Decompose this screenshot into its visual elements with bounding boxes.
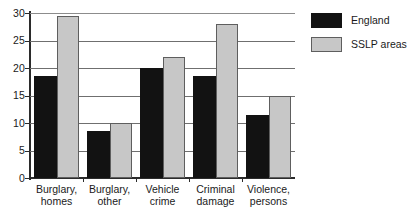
y-axis-tick-label: 20 [1,63,25,74]
chart-legend: EnglandSSLP areas [311,13,407,61]
bar-england [140,68,163,178]
bar-england [193,76,216,178]
bar-chart: 051015202530 Burglary,homesBurglary,othe… [0,0,413,221]
gridline [30,13,295,14]
bar-england [87,131,110,178]
bar-sslp [110,123,133,178]
x-axis-category-label: Burglary,other [83,183,136,207]
x-axis-category-label: Burglary,homes [30,183,83,207]
x-axis-category-label: Vehiclecrime [136,183,189,207]
y-axis-tick-mark [25,68,29,69]
bar-sslp [269,96,292,179]
category-label-line: crime [136,195,189,207]
y-axis-tick-label: 5 [1,145,25,156]
x-axis-tick-mark [242,178,243,182]
x-axis-tick-mark [136,178,137,182]
y-axis-tick-label: 0 [1,173,25,184]
bar-sslp [57,16,80,178]
y-axis-tick-label: 25 [1,35,25,46]
y-axis-tick-label: 30 [1,8,25,19]
y-axis-labels: 051015202530 [0,0,25,221]
category-label-line: Criminal [189,183,242,195]
category-label-line: Burglary, [83,183,136,195]
category-label-line: Vehicle [136,183,189,195]
y-axis-tick-mark [25,41,29,42]
y-axis-tick-mark [25,96,29,97]
y-axis-tick-label: 15 [1,90,25,101]
y-axis-tick-label: 10 [1,118,25,129]
legend-swatch-sslp [311,37,342,52]
x-axis-tick-mark [83,178,84,182]
category-label-line: damage [189,195,242,207]
category-label-line: Violence, [242,183,295,195]
category-label-line: other [83,195,136,207]
bar-sslp [216,24,239,178]
plot-area [30,13,295,178]
y-axis-tick-mark [25,13,29,14]
y-axis-tick-mark [25,178,29,179]
legend-item: SSLP areas [311,37,407,52]
y-axis-tick-mark [25,151,29,152]
bar-england [34,76,57,178]
legend-swatch-england [311,13,342,28]
category-label-line: homes [30,195,83,207]
x-axis-category-label: Criminaldamage [189,183,242,207]
x-axis-tick-mark [189,178,190,182]
y-axis-tick-mark [25,123,29,124]
category-label-line: persons [242,195,295,207]
x-axis-category-label: Violence,persons [242,183,295,207]
bar-sslp [163,57,186,178]
legend-item: England [311,13,407,28]
bar-england [246,115,269,178]
category-label-line: Burglary, [30,183,83,195]
legend-label: England [351,15,390,26]
legend-label: SSLP areas [351,39,407,50]
